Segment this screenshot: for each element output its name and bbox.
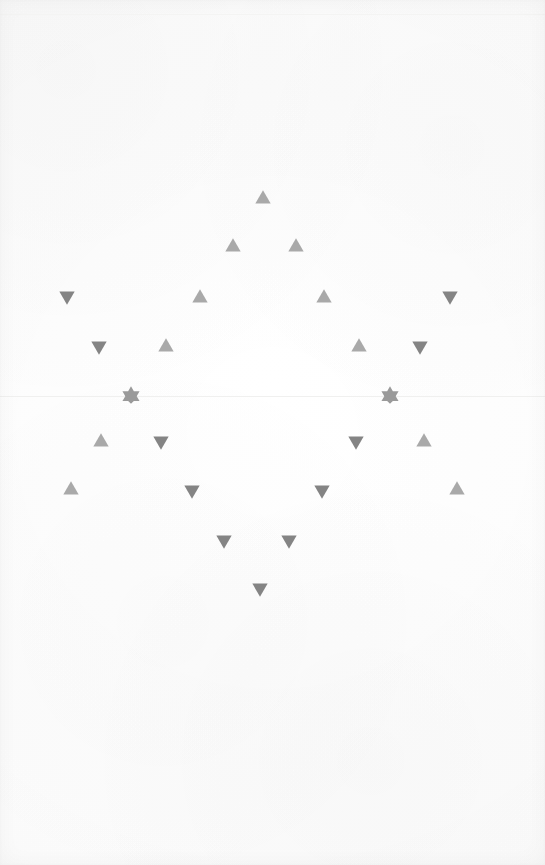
triangle-up-marker-icon xyxy=(351,337,368,354)
triangle-up-marker-icon xyxy=(255,189,272,206)
triangle-down-marker-icon xyxy=(412,340,429,357)
plot-area xyxy=(0,0,545,865)
triangle-down-marker-icon xyxy=(348,435,365,452)
star-6-marker-icon xyxy=(122,386,141,405)
star-6-marker-icon xyxy=(381,386,400,405)
figure-canvas xyxy=(0,0,545,865)
triangle-down-marker-icon xyxy=(216,534,233,551)
triangle-up-marker-icon xyxy=(192,288,209,305)
triangle-down-marker-icon xyxy=(252,582,269,599)
triangle-up-marker-icon xyxy=(158,337,175,354)
triangle-down-marker-icon xyxy=(314,484,331,501)
triangle-down-marker-icon xyxy=(153,435,170,452)
triangle-down-marker-icon xyxy=(184,484,201,501)
triangle-down-marker-icon xyxy=(281,534,298,551)
triangle-up-marker-icon xyxy=(63,480,80,497)
triangle-up-marker-icon xyxy=(449,480,466,497)
triangle-up-marker-icon xyxy=(316,288,333,305)
triangle-up-marker-icon xyxy=(225,237,242,254)
triangle-up-marker-icon xyxy=(288,237,305,254)
triangle-down-marker-icon xyxy=(59,290,76,307)
triangle-up-marker-icon xyxy=(93,432,110,449)
triangle-down-marker-icon xyxy=(442,290,459,307)
triangle-down-marker-icon xyxy=(91,340,108,357)
triangle-up-marker-icon xyxy=(416,432,433,449)
